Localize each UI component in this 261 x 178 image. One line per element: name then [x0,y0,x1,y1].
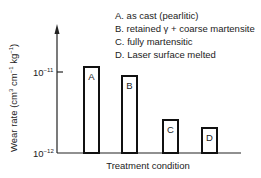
legend: A. as cast (pearlitic) B. retained γ + c… [115,10,255,60]
bar-c: C [163,120,178,153]
bar-label-c: C [167,124,174,135]
y-axis: 10−11 10−12 Wear rate (cm3 cm−1 kg−1) [8,24,63,159]
wear-rate-chart: A. as cast (pearlitic) B. retained γ + c… [0,0,261,178]
bar-d: D [202,128,217,153]
bar-label-d: D [206,132,213,143]
legend-item-c: C. fully martensitic [115,36,193,47]
legend-item-d: D. Laser surface melted [115,49,216,60]
bar-label-a: A [88,71,95,82]
x-axis-label: Treatment condition [106,160,190,171]
legend-item-b: B. retained γ + coarse martensite [115,23,255,34]
bar-a: A [84,67,99,153]
y-tick-label-1e-11: 10−11 [33,67,54,78]
y-tick-label-1e-12: 10−12 [33,148,54,159]
bar-b: B [122,76,137,153]
axis-arrow-icon [55,24,60,34]
bar-label-b: B [126,80,132,91]
bars: A B C D [84,67,217,153]
x-axis: Treatment condition [57,153,241,171]
y-axis-label: Wear rate (cm3 cm−1 kg−1) [8,44,19,152]
legend-item-a: A. as cast (pearlitic) [115,10,198,21]
